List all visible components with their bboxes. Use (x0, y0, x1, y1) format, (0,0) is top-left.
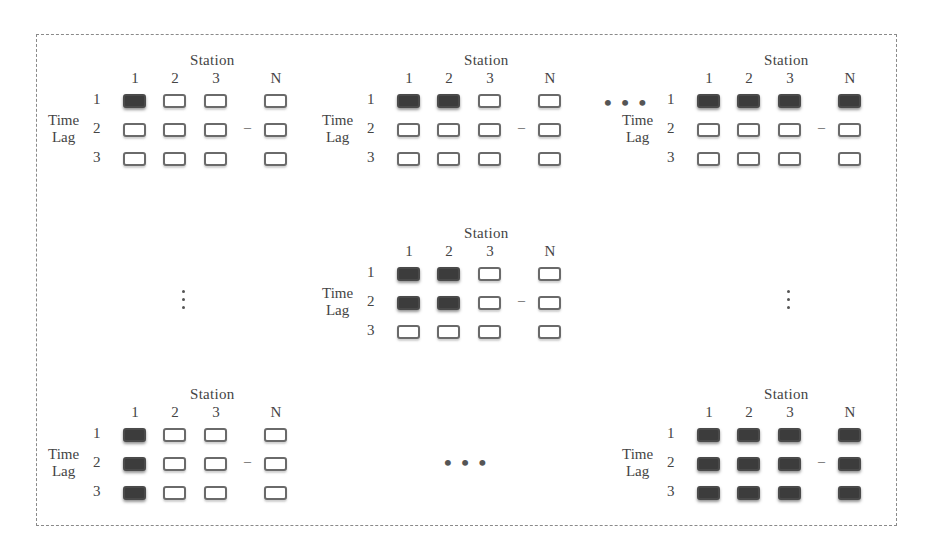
row-label: 2 (93, 120, 101, 137)
vertical-ellipsis-right (786, 290, 792, 314)
unselected-cell (264, 152, 287, 166)
unselected-cell (163, 486, 186, 500)
row-label: 1 (93, 91, 101, 108)
unselected-cell (204, 428, 227, 442)
selected-cell (737, 428, 760, 442)
column-label: 1 (699, 404, 719, 421)
unselected-cell (163, 457, 186, 471)
column-label: 2 (439, 243, 459, 260)
unselected-cell (397, 325, 420, 339)
time-lag-axis-label-line: Lag (322, 129, 353, 146)
selected-cell (778, 486, 801, 500)
unselected-cell (538, 152, 561, 166)
horizontal-ellipsis-top: • • • (604, 90, 648, 116)
unselected-cell (123, 123, 146, 137)
column-label: 1 (699, 70, 719, 87)
column-label: 3 (206, 404, 226, 421)
unselected-cell (538, 296, 561, 310)
vertical-ellipsis-left (181, 290, 187, 314)
column-label: N (266, 404, 286, 421)
unselected-cell (397, 123, 420, 137)
unselected-cell (478, 123, 501, 137)
unselected-cell (478, 267, 501, 281)
selected-cell (778, 457, 801, 471)
unselected-cell (538, 267, 561, 281)
row-label: 2 (667, 120, 675, 137)
selected-cell (737, 94, 760, 108)
station-axis-label: Station (464, 225, 509, 242)
selected-cell (697, 428, 720, 442)
station-axis-label: Station (464, 52, 509, 69)
unselected-cell (264, 94, 287, 108)
unselected-cell (123, 152, 146, 166)
unselected-cell (838, 123, 861, 137)
unselected-cell (838, 152, 861, 166)
row-label: 3 (367, 149, 375, 166)
selected-cell (123, 486, 146, 500)
column-label: 2 (739, 404, 759, 421)
selected-cell (123, 428, 146, 442)
selected-cell (838, 94, 861, 108)
selected-cell (697, 486, 720, 500)
row-label: 2 (667, 454, 675, 471)
station-axis-label: Station (190, 386, 235, 403)
unselected-cell (264, 486, 287, 500)
unselected-cell (538, 94, 561, 108)
column-ellipsis: – (518, 120, 525, 136)
time-lag-axis-label-line: Lag (622, 129, 653, 146)
unselected-cell (204, 486, 227, 500)
row-label: 3 (93, 483, 101, 500)
selected-cell (123, 457, 146, 471)
selected-cell (778, 94, 801, 108)
time-lag-axis-label-line: Time (322, 285, 353, 302)
time-lag-axis-label-line: Lag (48, 463, 79, 480)
unselected-cell (163, 428, 186, 442)
unselected-cell (264, 457, 287, 471)
unselected-cell (478, 325, 501, 339)
selected-cell (778, 428, 801, 442)
unselected-cell (204, 123, 227, 137)
time-lag-axis-label-line: Lag (322, 302, 353, 319)
unselected-cell (697, 123, 720, 137)
row-label: 2 (93, 454, 101, 471)
unselected-cell (437, 123, 460, 137)
unselected-cell (264, 123, 287, 137)
column-label: N (840, 70, 860, 87)
column-ellipsis: – (518, 293, 525, 309)
column-label: 1 (399, 70, 419, 87)
row-label: 3 (93, 149, 101, 166)
selected-cell (397, 296, 420, 310)
panel-top-left: Station123NTimeLag123– (48, 52, 308, 187)
column-label: 3 (780, 70, 800, 87)
row-label: 3 (667, 483, 675, 500)
unselected-cell (163, 152, 186, 166)
column-label: 3 (780, 404, 800, 421)
horizontal-ellipsis-bottom: • • • (444, 450, 488, 476)
time-lag-axis-label-line: Lag (48, 129, 79, 146)
row-label: 1 (367, 91, 375, 108)
selected-cell (437, 296, 460, 310)
time-lag-axis-label: TimeLag (322, 285, 353, 319)
selected-cell (737, 457, 760, 471)
unselected-cell (778, 123, 801, 137)
selected-cell (838, 457, 861, 471)
column-ellipsis: – (244, 120, 251, 136)
column-ellipsis: – (818, 120, 825, 136)
unselected-cell (204, 152, 227, 166)
time-lag-axis-label: TimeLag (622, 446, 653, 480)
row-label: 2 (367, 120, 375, 137)
time-lag-axis-label: TimeLag (622, 112, 653, 146)
column-label: N (266, 70, 286, 87)
column-label: N (540, 243, 560, 260)
column-label: 2 (739, 70, 759, 87)
time-lag-axis-label-line: Time (622, 446, 653, 463)
column-label: 1 (125, 70, 145, 87)
selected-cell (737, 486, 760, 500)
column-ellipsis: – (244, 454, 251, 470)
unselected-cell (437, 325, 460, 339)
unselected-cell (397, 152, 420, 166)
station-axis-label: Station (190, 52, 235, 69)
unselected-cell (737, 123, 760, 137)
row-label: 1 (367, 264, 375, 281)
column-label: 2 (439, 70, 459, 87)
